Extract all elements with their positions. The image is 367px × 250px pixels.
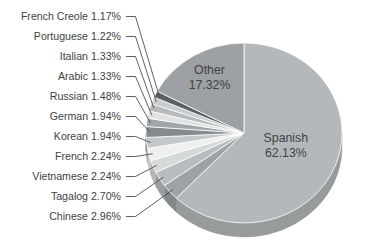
- pie-label-german: German 1.94%: [50, 110, 122, 122]
- pie-inner-label-spanish-value: 62.13%: [265, 146, 307, 160]
- pie-label-french: French 2.24%: [55, 150, 122, 162]
- pie-label-chinese: Chinese 2.96%: [49, 210, 121, 222]
- pie-label-arabic: Arabic 1.33%: [58, 70, 122, 82]
- pie-label-tagalog: Tagalog 2.70%: [51, 190, 122, 202]
- language-pie-chart-canvas: French Creole 1.17%Portuguese 1.22%Itali…: [0, 0, 367, 250]
- pie-inner-label-other-value: 17.32%: [189, 78, 231, 92]
- pie-label-portuguese: Portuguese 1.22%: [34, 30, 122, 42]
- pie-chart: French Creole 1.17%Portuguese 1.22%Itali…: [0, 0, 367, 250]
- pie-label-italian: Italian 1.33%: [60, 50, 122, 62]
- pie-label-french-creole: French Creole 1.17%: [21, 10, 122, 22]
- leader-portuguese: [126, 37, 156, 102]
- pie-inner-label-other-name: Other: [194, 63, 225, 77]
- pie-label-russian: Russian 1.48%: [50, 90, 122, 102]
- pie-label-vietnamese: Vietnamese 2.24%: [32, 170, 121, 182]
- pie-label-korean: Korean 1.94%: [54, 130, 122, 142]
- leader-arabic: [126, 77, 152, 116]
- pie-inner-label-spanish-name: Spanish: [264, 131, 309, 145]
